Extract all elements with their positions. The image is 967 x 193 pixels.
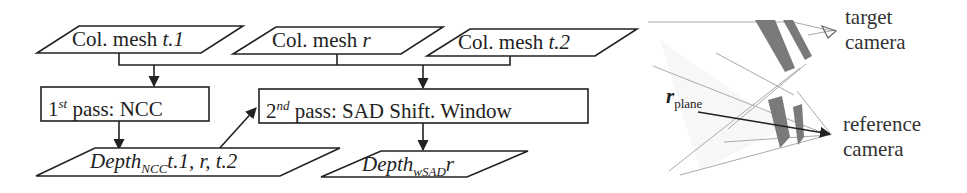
input-label-r: Col. mesh r [272,28,371,52]
input-label-t1: Col. mesh t.1 [72,27,184,51]
reference-camera-label: referencecamera [843,112,921,162]
plane-label: rplane [666,84,702,116]
input-label-t2: Col. mesh t.2 [458,30,570,54]
output-label-wsad: DepthwSADr [362,152,454,184]
output-label-ncc: DepthNCCt.1, r, t.2 [90,149,237,181]
target-camera-label: targetcamera [845,5,906,55]
figure: Col. mesh t.1 Col. mesh r Col. mesh t.2 … [0,0,967,193]
pass2-label: 2nd pass: SAD Shift. Window [266,94,512,123]
pass1-label: 1st pass: NCC [48,92,163,121]
